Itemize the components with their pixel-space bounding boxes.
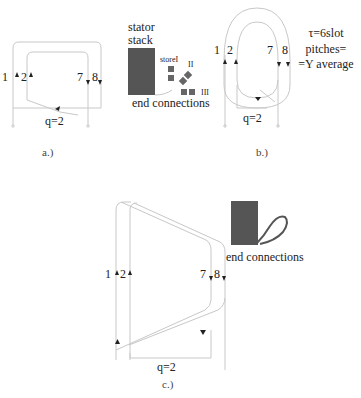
slot-label-2: 2 [21, 71, 27, 83]
slot-label-2: 2 [227, 44, 233, 56]
stator-title-line2: stack [128, 34, 153, 46]
stator-stack-block [128, 48, 155, 95]
up-arrow-icon [128, 270, 132, 275]
q-label: q=2 [45, 115, 64, 127]
slot-label-8: 8 [282, 44, 288, 56]
pitch-note-line1: τ=6slot [296, 27, 356, 39]
end-connection-illustration [231, 201, 287, 245]
layer-label-2: II [188, 61, 193, 69]
slot-label-2: 2 [120, 268, 126, 280]
down-arrow-icon [286, 62, 290, 67]
panel-b-coils [224, 8, 290, 127]
q-label: q=2 [157, 361, 176, 373]
caption-a: a.) [42, 147, 53, 158]
end-winding-loop [257, 216, 287, 244]
pitch-note-line2: pitches= [296, 43, 356, 55]
end-connections-label: end connections [226, 251, 304, 263]
slot-label-1: 1 [214, 44, 220, 56]
stator-stack-block [231, 201, 258, 245]
caption-b: b.) [256, 147, 268, 158]
caption-c: c.) [162, 379, 173, 390]
down-arrow-icon [209, 276, 213, 281]
slot-label-7: 7 [267, 44, 273, 56]
up-arrow-icon [15, 72, 19, 77]
slot-label-1: 1 [2, 71, 8, 83]
end-connections-label: end connections [132, 97, 210, 109]
direction-arrow-icon [255, 97, 261, 101]
pitch-note-line3: =Y average [294, 58, 358, 70]
slot-label-7: 7 [200, 268, 206, 280]
slot-label-7: 7 [77, 71, 83, 83]
stator-title-line1: stator [128, 21, 155, 33]
slot-label-1: 1 [105, 268, 111, 280]
layer-label-1: storeI [160, 56, 178, 64]
up-arrow-icon [29, 72, 33, 77]
slot-label-8: 8 [92, 71, 98, 83]
down-arrow-icon [200, 330, 206, 335]
down-arrow-icon [86, 80, 90, 85]
slot-label-8: 8 [214, 268, 220, 280]
panel-c-coils [116, 202, 225, 370]
q-label: q=2 [243, 112, 262, 124]
